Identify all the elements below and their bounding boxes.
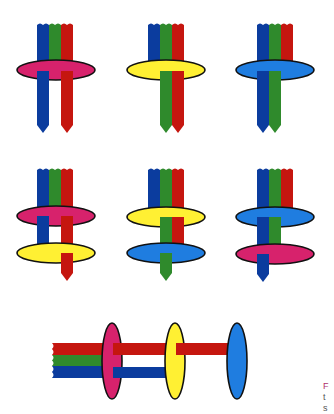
figure-row2-blue-pink — [236, 169, 314, 283]
figure-row2-yellow-blue — [127, 169, 205, 282]
figure-row2-pink-yellow — [17, 169, 95, 282]
strand-red-passing — [172, 71, 184, 133]
figure-row1-blue — [236, 24, 314, 134]
figure-row1-yellow — [127, 24, 205, 134]
strand-green-passing — [269, 71, 281, 133]
ring-yellow — [165, 323, 185, 399]
strand-red-passing — [61, 71, 73, 133]
ring-blue — [227, 323, 247, 399]
strand-blue-passing — [257, 71, 269, 133]
strand-blue-passing — [257, 254, 269, 282]
ring-pink — [17, 206, 95, 226]
ring-pink — [102, 323, 122, 399]
caption-line-3: s — [323, 403, 328, 413]
figure-row1-pink — [17, 24, 95, 134]
caption-line-2: t — [323, 392, 326, 402]
figure-row3-horizontal — [52, 323, 247, 399]
figure-caption-fragment: F t s — [323, 381, 329, 414]
strand-red-right — [176, 343, 231, 355]
caption-line-1: F — [323, 381, 329, 391]
ring-pink — [17, 60, 95, 80]
strand-green-passing — [160, 253, 172, 281]
ring-pink — [236, 244, 314, 264]
ring-yellow — [17, 243, 95, 263]
strand-blue-passing — [37, 71, 49, 133]
strand-green-passing — [160, 71, 172, 133]
strand-red-passing — [61, 253, 73, 281]
